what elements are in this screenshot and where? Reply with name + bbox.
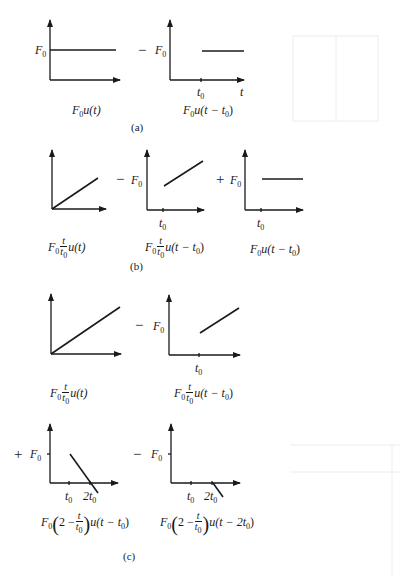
plot-b1	[52, 150, 106, 209]
y-label-f0: F0	[30, 448, 41, 465]
operator-minus: −	[116, 172, 124, 187]
plot-c1	[51, 294, 121, 354]
x-tick-label-t0: t0	[187, 490, 194, 507]
equation-c2: F0tt0u(t − t0)	[174, 382, 233, 407]
x-axis-label-t: t	[240, 86, 243, 98]
equation-c4: F0(2 −tt0)u(t − 2t0)	[160, 511, 254, 536]
plot-c4	[168, 424, 240, 497]
equation-a2: F0u(t − t0)	[183, 104, 233, 121]
bleed-through-lines	[290, 36, 400, 577]
operator-minus: −	[138, 43, 146, 58]
plot-c2	[169, 295, 240, 357]
plot-b2	[147, 150, 204, 212]
plot-a1	[50, 20, 120, 80]
caption-b: (b)	[130, 260, 143, 272]
y-label-f0: F0	[230, 174, 241, 191]
ramp-curve	[200, 308, 239, 333]
operator-minus: −	[135, 318, 143, 333]
y-label-f0: F0	[153, 320, 164, 337]
caption-c: (c)	[123, 550, 135, 562]
y-label-f0: F0	[131, 174, 142, 191]
operator-plus: +	[14, 447, 22, 462]
x-tick-label-t0: t0	[195, 362, 202, 379]
plot-a2	[170, 20, 244, 82]
x-tick-label-t0: t0	[159, 217, 166, 234]
equation-a1: F0u(t)	[72, 104, 101, 121]
equation-c1: F0tt0u(t)	[50, 382, 87, 407]
plot-b3	[245, 150, 303, 212]
equation-c3: F0(2 −tt0)u(t − t0)	[41, 511, 129, 536]
ramp-curve	[51, 307, 120, 354]
y-label-f0: F0	[35, 44, 46, 61]
x-tick-label-2t0: 2t0	[204, 490, 217, 507]
operator-plus: +	[216, 172, 224, 187]
ramp-curve	[52, 178, 98, 209]
decreasing-ramp-curve	[70, 454, 98, 493]
equation-b2: F0tt0u(t − t0)	[145, 236, 204, 261]
x-tick-label-t0: t0	[65, 490, 72, 507]
y-label-f0: F0	[155, 44, 166, 61]
x-tick-label-t0: t0	[257, 217, 264, 234]
operator-minus: −	[133, 447, 141, 462]
ramp-curve	[164, 161, 203, 186]
caption-a: (a)	[131, 121, 143, 133]
x-tick-label-t0: t0	[197, 86, 204, 103]
equation-b3: F0u(t − t0)	[250, 243, 300, 260]
x-tick-label-2t0: 2t0	[83, 490, 96, 507]
plot-c3	[47, 424, 118, 493]
equation-b1: F0tt0u(t)	[48, 236, 85, 261]
y-label-f0: F0	[151, 448, 162, 465]
